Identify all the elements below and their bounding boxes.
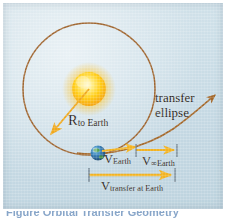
label-v-infinity-main: V [142,154,151,168]
label-v-earth: VEarth [104,153,131,166]
label-v-earth-sub: Earth [113,157,131,166]
diagram-panel: Rto Earth transferellipse VEarth V∞Earth… [3,3,223,209]
caption-strip: Figure Orbital Transfer Geometry [0,211,226,223]
label-transfer-line1: transfer [155,90,195,105]
label-radius-to-earth: Rto Earth [68,113,108,128]
label-radius-sub: to Earth [78,117,109,128]
label-radius-main: R [68,112,78,128]
label-v-earth-main: V [104,152,113,166]
label-v-transfer-main: V [101,179,110,193]
label-v-infinity-earth: V∞Earth [142,155,175,168]
label-transfer-line2: ellipse [155,105,189,120]
label-v-infinity-sub: ∞Earth [151,159,175,168]
label-transfer-ellipse: transferellipse [155,91,223,120]
label-v-transfer-sub: transfer at Earth [110,184,163,193]
label-v-transfer-at-earth: Vtransfer at Earth [101,180,163,193]
figure-container: Rto Earth transferellipse VEarth V∞Earth… [0,0,226,223]
caption-text: Figure Orbital Transfer Geometry [6,211,179,218]
